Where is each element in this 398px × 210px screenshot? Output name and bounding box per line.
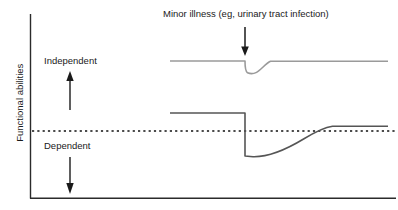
label-dependent: Dependent xyxy=(44,141,90,151)
chart-axes xyxy=(30,14,396,199)
annotation-arrow-icon xyxy=(241,27,249,56)
label-independent: Independent xyxy=(44,56,97,66)
dependent-direction-arrow-icon xyxy=(66,157,73,194)
series-line-robust-older-person xyxy=(170,61,388,74)
y-axis-label: Functional abilities xyxy=(15,43,25,163)
functional-decline-chart xyxy=(0,0,398,210)
series-line-frail-older-person xyxy=(170,113,388,157)
independent-direction-arrow-icon xyxy=(66,71,73,110)
annotation-title: Minor illness (eg, urinary tract infecti… xyxy=(163,9,329,19)
figure-container: Minor illness (eg, urinary tract infecti… xyxy=(0,0,398,210)
